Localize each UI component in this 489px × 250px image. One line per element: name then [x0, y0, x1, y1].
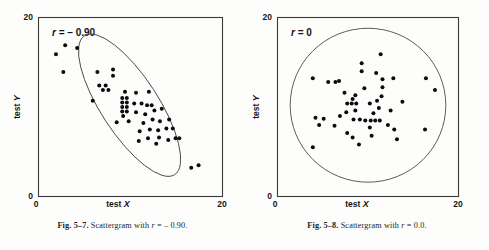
x-axis-title-italic: X [362, 199, 370, 209]
data-point [350, 101, 354, 105]
caption-label: Fig. 5–7. [57, 221, 88, 230]
x-axis-title: test X [106, 199, 130, 209]
data-point [368, 126, 372, 130]
data-point [125, 109, 129, 113]
data-point [344, 110, 348, 114]
correlation-annotation: r = – 0.90 [52, 27, 96, 38]
caption-text-a: Scattergram with [338, 221, 401, 230]
data-point [91, 99, 95, 103]
plot-area-5-8: 20 0 0 20 test X test Y r = 0 [245, 0, 489, 215]
data-point [377, 106, 381, 110]
data-point [391, 76, 395, 80]
envelope-circle [290, 28, 446, 182]
data-point [132, 101, 136, 105]
data-point [380, 77, 384, 81]
data-point [148, 127, 152, 131]
data-envelope-ellipse [60, 20, 198, 190]
data-point [353, 93, 357, 97]
y-axis-title: test Y [12, 94, 22, 118]
data-point [120, 101, 124, 105]
x-axis-title-italic: X [123, 199, 131, 209]
data-point [311, 76, 315, 80]
x-tick-max: 20 [453, 199, 463, 209]
data-point [338, 114, 342, 118]
figure-page: 20 0 0 20 test X test Y r = – 0.90 Fig. … [0, 0, 489, 250]
data-point [177, 136, 181, 140]
data-point [150, 103, 154, 107]
data-point [357, 143, 361, 147]
data-point [143, 112, 147, 116]
data-point [134, 110, 138, 114]
y-axis-title: test Y [251, 94, 261, 118]
data-point [156, 128, 160, 132]
data-point [360, 61, 364, 65]
data-point [317, 123, 321, 127]
data-point [322, 117, 326, 121]
caption-text-b: = 0.0. [405, 221, 427, 230]
data-point [125, 105, 129, 109]
data-point [121, 114, 125, 118]
data-point [423, 127, 427, 131]
data-point [125, 96, 129, 100]
data-point [363, 118, 367, 122]
data-point [134, 91, 138, 95]
data-point [127, 119, 131, 123]
data-point [373, 118, 377, 122]
data-point [352, 118, 356, 122]
x-axis-title-static: test [106, 199, 123, 209]
data-envelope-circle [290, 28, 446, 182]
data-point [371, 111, 375, 115]
data-point [141, 121, 145, 125]
data-point [104, 84, 108, 88]
data-point [369, 118, 373, 122]
data-point [395, 137, 399, 141]
data-point [75, 46, 79, 50]
data-point [353, 109, 357, 113]
plot-area-5-7: 20 0 0 20 test X test Y r = – 0.90 [0, 0, 245, 215]
caption-text-a: Scattergram with [89, 221, 152, 230]
data-point [138, 129, 142, 133]
data-point [189, 166, 193, 170]
data-point [354, 101, 358, 105]
data-point [314, 116, 318, 120]
data-point [166, 138, 170, 142]
y-tick-min: 0 [267, 191, 272, 201]
data-point [125, 101, 129, 105]
data-point [140, 101, 144, 105]
data-point [378, 118, 382, 122]
data-point [111, 67, 115, 71]
data-point [61, 70, 65, 74]
data-point [160, 107, 164, 111]
caption-text-b: = – 0.90. [155, 221, 188, 230]
x-axis-title: test X [345, 199, 369, 209]
data-point [333, 124, 337, 128]
data-point [167, 118, 171, 122]
data-point [164, 126, 168, 130]
data-point [375, 99, 379, 103]
data-point [370, 134, 374, 138]
data-point [386, 123, 390, 127]
figure-caption-5-8: Fig. 5–8. Scattergram with r = 0.0. [245, 221, 489, 230]
envelope-ellipse [60, 20, 198, 190]
scatterplot-5-8: 20 0 0 20 test X test Y r = 0 [245, 0, 489, 215]
data-point [146, 136, 150, 140]
data-point [120, 105, 124, 109]
data-point [351, 97, 355, 101]
data-point [171, 126, 175, 130]
data-point [158, 119, 162, 123]
data-point [311, 145, 315, 149]
y-axis-title-static: test [251, 101, 261, 118]
data-point [174, 136, 178, 140]
plot-frame [278, 18, 459, 197]
y-tick-min: 0 [28, 191, 33, 201]
caption-label: Fig. 5–8. [307, 221, 338, 230]
data-point [389, 109, 393, 113]
y-tick-max: 20 [263, 12, 273, 22]
correlation-annotation: r = 0 [291, 27, 312, 38]
data-point [374, 71, 378, 75]
figure-caption-5-7: Fig. 5–7. Scattergram with r = – 0.90. [0, 221, 245, 230]
data-point [106, 88, 110, 92]
y-axis-title-static: test [12, 101, 22, 118]
data-point [345, 131, 349, 135]
data-point [351, 135, 355, 139]
